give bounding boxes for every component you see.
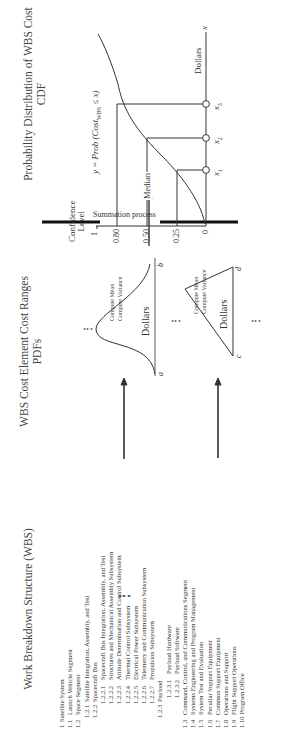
- pdf-ellipsis-top: ⋮: [82, 323, 93, 334]
- cdf-x2-label: x2: [211, 137, 223, 144]
- triangular-compute-mean: Compute Mean: [192, 270, 200, 314]
- cdf-equation-sub: WBS: [96, 107, 102, 120]
- pdf-ellipsis-middle: ⋮: [170, 316, 181, 326]
- cdf-x3-label: x3: [211, 103, 223, 110]
- cdf-equation-main: y = Prob (Cost: [90, 120, 100, 174]
- normal-dollars-label: Dollars: [140, 307, 151, 336]
- arrow-wbs-to-normal-pdf: [121, 378, 127, 459]
- triangular-lower-bound: c: [234, 354, 243, 358]
- cdf-y-tick-050: 0.50: [142, 229, 151, 243]
- cdf-equation-tail: ≤ x): [90, 91, 100, 107]
- cdf-y-title-line2: Level: [77, 201, 86, 242]
- cdf-y-axis-title: Confidence Level: [68, 201, 86, 242]
- cdf-y-tick-025: 0.25: [172, 229, 181, 243]
- cdf-x-axis-label: Dollars: [193, 48, 203, 75]
- summation-process-label: Summation process: [75, 210, 175, 219]
- cdf-x1-label: x1: [211, 169, 223, 176]
- triangular-pdf-stats: Compute Mean Compute Variance: [192, 270, 208, 314]
- cdf-x-axis-var: x: [199, 26, 209, 30]
- cdf-title-line1: Probability Distribution of WBS Cost: [22, 0, 35, 189]
- normal-pdf-stats: Compute Mean Compute Variance: [108, 277, 124, 321]
- cdf-guides: [117, 104, 206, 226]
- pdf-ellipsis-bottom: ⋮: [250, 316, 261, 326]
- cdf-y-tick-0: 0: [201, 230, 210, 234]
- cdf-median-label: Median: [142, 172, 152, 200]
- normal-upper-bound: b: [156, 263, 165, 267]
- normal-lower-bound: a: [156, 372, 165, 376]
- triangular-dollars-label: Dollars: [218, 300, 229, 329]
- cdf-y-tick-1: 1: [90, 232, 99, 236]
- cdf-title: Probability Distribution of WBS Cost CDF: [22, 0, 48, 189]
- triangular-upper-bound: d: [234, 267, 243, 271]
- normal-compute-variance: Compute Variance: [116, 277, 124, 321]
- triangular-compute-variance: Compute Variance: [200, 270, 208, 314]
- cdf-y-tick-080: 0.80: [112, 229, 121, 243]
- cdf-equation: y = Prob (CostWBS ≤ x): [90, 91, 102, 174]
- normal-compute-mean: Compute Mean: [108, 277, 116, 321]
- cdf-title-line2: CDF: [35, 0, 48, 189]
- wbs-cost-diagram: Work Breakdown Structure (WBS) 1Satellit…: [0, 0, 299, 734]
- arrow-wbs-to-triangular-pdf: [215, 378, 221, 458]
